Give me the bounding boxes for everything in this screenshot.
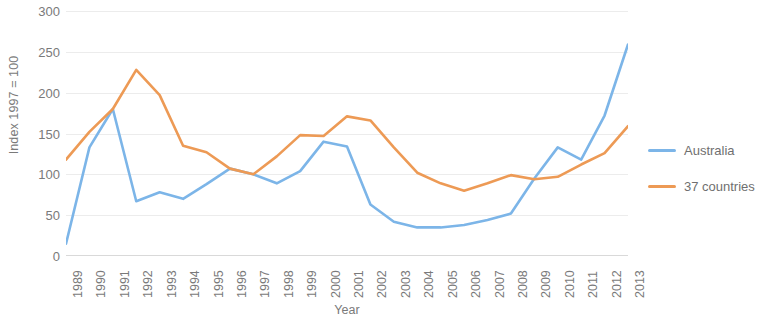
- x-axis-tick-labels: 1989199019911992199319941995199619971998…: [66, 258, 628, 302]
- x-axis-tick-label: 1989: [71, 270, 85, 298]
- legend-swatch-icon: [648, 185, 676, 188]
- legend-item[interactable]: Australia: [648, 132, 770, 168]
- legend-item[interactable]: 37 countries: [648, 168, 770, 204]
- x-axis-tick-label: 2013: [633, 270, 647, 298]
- y-axis-tick-label: 200: [38, 85, 60, 100]
- plot-area: [66, 11, 628, 256]
- line-chart: Index 1997 = 100 050100150200250300 1989…: [0, 0, 770, 325]
- x-axis-tick-label: 1999: [305, 270, 319, 298]
- x-axis-tick-label: 1993: [165, 270, 179, 298]
- x-axis-tick-label: 2012: [610, 270, 624, 298]
- x-axis-tick-label: 1997: [258, 270, 272, 298]
- y-axis-title: Index 1997 = 100: [7, 45, 21, 165]
- y-axis-tick-labels: 050100150200250300: [24, 0, 60, 258]
- x-axis-tick-label: 2005: [446, 270, 460, 298]
- x-axis-tick-label: 2004: [422, 270, 436, 298]
- x-axis-tick-label: 2009: [539, 270, 553, 298]
- x-axis-tick-label: 1998: [282, 270, 296, 298]
- x-axis-tick-label: 1995: [212, 270, 226, 298]
- legend-label: 37 countries: [684, 179, 755, 194]
- y-axis-tick-label: 250: [38, 44, 60, 59]
- x-axis-tick-label: 2003: [399, 270, 413, 298]
- x-axis-tick-label: 2011: [586, 271, 600, 298]
- x-axis-tick-label: 2001: [352, 270, 366, 298]
- y-axis-tick-label: 100: [38, 167, 60, 182]
- y-axis-tick-label: 300: [38, 4, 60, 19]
- x-axis-tick-label: 1996: [235, 270, 249, 298]
- x-axis-tick-label: 2008: [516, 270, 530, 298]
- x-axis-tick-label: 1994: [188, 270, 202, 298]
- series-lines: [66, 11, 628, 256]
- x-axis-tick-label: 1991: [118, 270, 132, 298]
- legend-swatch-icon: [648, 149, 676, 152]
- x-axis-tick-label: 1990: [94, 270, 108, 298]
- y-axis-tick-label: 50: [46, 208, 60, 223]
- chart-legend: Australia37 countries: [648, 132, 770, 204]
- x-axis-tick-label: 2007: [493, 270, 507, 298]
- x-axis-tick-label: 2000: [329, 270, 343, 298]
- x-axis-tick-label: 1992: [141, 270, 155, 298]
- y-axis-tick-label: 0: [53, 249, 60, 264]
- legend-label: Australia: [684, 143, 735, 158]
- y-axis-tick-label: 150: [38, 126, 60, 141]
- x-axis-tick-label: 2002: [375, 270, 389, 298]
- x-axis-tick-label: 2006: [469, 270, 483, 298]
- series-line: [66, 70, 628, 191]
- series-line: [66, 44, 628, 243]
- x-axis-title: Year: [66, 303, 628, 317]
- x-axis-tick-label: 2010: [563, 270, 577, 298]
